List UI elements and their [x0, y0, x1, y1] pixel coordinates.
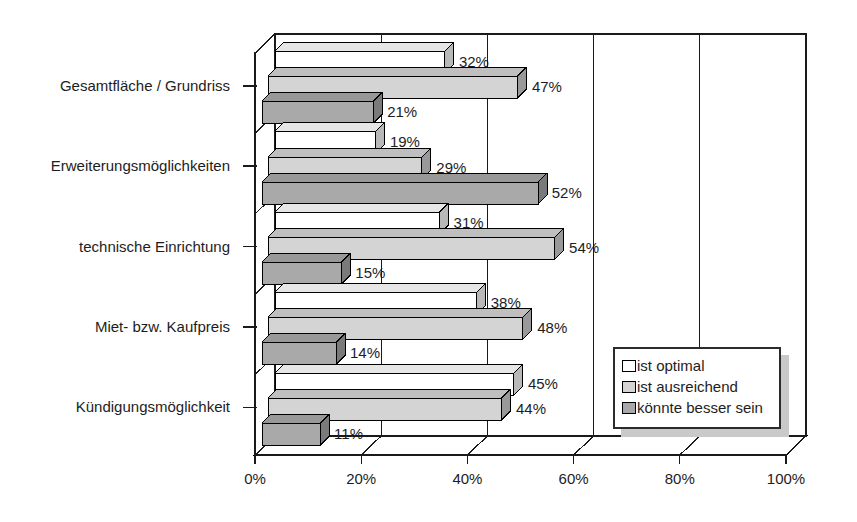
- value-label-3-2: 14%: [350, 345, 380, 360]
- chart-legend[interactable]: ist optimalist ausreichendkönnte besser …: [613, 347, 781, 429]
- bar-0-2: [262, 92, 383, 123]
- bar-3d-1-2: [262, 173, 549, 206]
- bar-3d-2-2: [262, 253, 353, 286]
- legend-label-2: könnte besser sein: [637, 400, 763, 415]
- legend-item-2[interactable]: könnte besser sein: [622, 397, 772, 418]
- bar-4-2: [262, 414, 329, 445]
- legend-swatch-icon-0: [622, 360, 636, 372]
- legend-item-1[interactable]: ist ausreichend: [622, 376, 772, 397]
- x-tick-60: 60%: [559, 471, 589, 486]
- value-label-4-2: 11%: [334, 426, 363, 441]
- x-tick-0: 0%: [244, 471, 266, 486]
- value-label-1-2: 52%: [552, 185, 582, 200]
- legend-swatch-icon-1: [622, 381, 636, 393]
- value-label-1-1: 29%: [436, 160, 466, 175]
- x-tick-100: 100%: [767, 471, 805, 486]
- value-label-2-0: 31%: [454, 215, 484, 230]
- value-label-0-1: 47%: [532, 79, 562, 94]
- legend-label-0: ist optimal: [637, 358, 705, 373]
- x-tick-20: 20%: [346, 471, 376, 486]
- value-label-4-1: 44%: [516, 401, 546, 416]
- value-label-4-0: 45%: [528, 376, 558, 391]
- value-label-3-1: 48%: [537, 320, 567, 335]
- bar-3d-4-2: [262, 414, 331, 447]
- value-label-2-2: 15%: [355, 265, 385, 280]
- legend-item-0[interactable]: ist optimal: [622, 355, 772, 376]
- bar-3d-3-2: [262, 333, 347, 366]
- bar-chart: Gesamtfläche / GrundrissErweiterungsmögl…: [0, 0, 857, 522]
- value-label-3-0: 38%: [491, 295, 521, 310]
- legend-label-1: ist ausreichend: [637, 379, 738, 394]
- value-label-2-1: 54%: [569, 240, 599, 255]
- value-label-0-0: 32%: [459, 54, 489, 69]
- value-label-1-0: 19%: [390, 134, 420, 149]
- bar-3d-0-2: [262, 92, 385, 125]
- legend-swatch-icon-2: [622, 402, 636, 414]
- bar-2-2: [262, 253, 351, 284]
- x-tick-40: 40%: [452, 471, 482, 486]
- x-tick-80: 80%: [665, 471, 695, 486]
- value-label-0-2: 21%: [387, 104, 417, 119]
- bar-1-2: [262, 173, 547, 204]
- bar-3-2: [262, 333, 345, 364]
